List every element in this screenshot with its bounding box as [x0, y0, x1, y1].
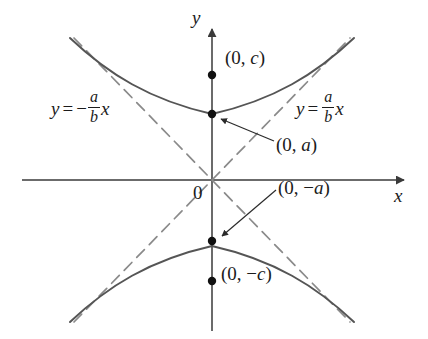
hyperbola-plot-svg: [0, 0, 428, 339]
right-eq-denominator: b: [322, 109, 334, 126]
focus-upper-label-close: ): [259, 47, 265, 68]
focus-lower-label-open: (0, −: [221, 263, 257, 284]
left-asymptote-equation: y = − a b x: [51, 90, 109, 127]
right-eq-numerator: a: [322, 89, 334, 106]
right-eq-fraction: a b: [322, 89, 334, 126]
left-eq-trailing: x: [101, 99, 109, 118]
vertex-upper-label-open: (0,: [276, 134, 301, 155]
left-eq-denominator: b: [88, 109, 100, 126]
x-axis-label: x: [394, 186, 402, 205]
vertex-lower-label-close: ): [324, 177, 330, 198]
vertex-upper-label-close: ): [311, 134, 317, 155]
vertex-lower-label: (0, −a): [278, 178, 330, 197]
left-eq-equals: =: [59, 99, 76, 118]
vertex-upper-arrow: [221, 119, 274, 141]
left-eq-numerator: a: [88, 89, 100, 106]
right-asymptote-equation: y = a b x: [296, 90, 344, 127]
focus-upper-label-var: c: [250, 47, 258, 68]
hyperbola-figure: y x 0 (0, c) (0, a) (0, −a) (0, −c) y = …: [0, 0, 428, 339]
annotation-arrow-group: [221, 119, 276, 236]
origin-label: 0: [193, 183, 203, 202]
vertex-lower-label-var: a: [314, 177, 324, 198]
vertex-upper-label-var: a: [301, 134, 311, 155]
point-vertex-upper: [208, 110, 216, 118]
focus-lower-label-close: ): [265, 263, 271, 284]
vertex-lower-arrow: [222, 190, 276, 236]
point-focus-lower: [208, 277, 216, 285]
right-eq-equals: =: [304, 99, 321, 118]
left-eq-fraction: a b: [88, 89, 100, 126]
focus-upper-label: (0, c): [225, 48, 265, 67]
left-eq-sign: −: [76, 99, 87, 118]
right-eq-trailing: x: [335, 99, 343, 118]
y-axis-label: y: [192, 8, 200, 27]
left-eq-lhs: y: [51, 99, 59, 118]
focus-upper-label-open: (0,: [225, 47, 250, 68]
point-vertex-lower: [208, 237, 216, 245]
vertex-lower-label-open: (0, −: [278, 177, 314, 198]
right-eq-lhs: y: [296, 99, 304, 118]
vertex-upper-label: (0, a): [276, 135, 317, 154]
focus-lower-label: (0, −c): [221, 264, 272, 283]
point-focus-upper: [208, 71, 216, 79]
